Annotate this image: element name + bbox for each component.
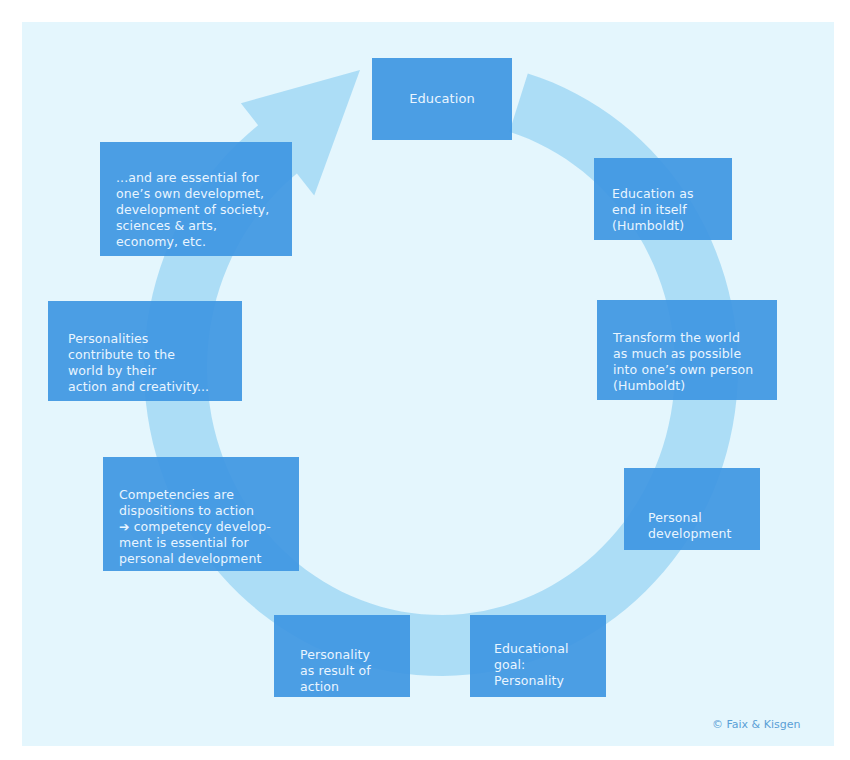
node-education: Education (372, 58, 512, 140)
node-text: Transform the world as much as possible … (613, 330, 753, 393)
node-essential-for: ...and are essential for one’s own devel… (100, 142, 292, 256)
node-competencies: Competencies are dispositions to action … (103, 457, 299, 571)
copyright-credit: © Faix & Kisgen (712, 718, 800, 731)
node-education-label: Education (409, 91, 475, 107)
node-text: Personal development (648, 510, 732, 541)
node-text: Education as end in itself (Humboldt) (612, 186, 694, 233)
node-text: ...and are essential for one’s own devel… (116, 170, 269, 249)
node-text: Personalities contribute to the world by… (68, 331, 209, 394)
node-personality-result: Personality as result of action (274, 615, 410, 697)
node-personalities-contribute: Personalities contribute to the world by… (48, 301, 242, 401)
node-transform-the-world: Transform the world as much as possible … (597, 300, 777, 400)
node-education-end-in-itself: Education as end in itself (Humboldt) (594, 158, 732, 240)
node-personal-development: Personal development (624, 468, 760, 550)
node-text: Personality as result of action (300, 647, 371, 694)
node-text: Competencies are dispositions to action … (119, 487, 271, 566)
node-text: Educational goal: Personality (494, 641, 568, 688)
node-educational-goal: Educational goal: Personality (470, 615, 606, 697)
